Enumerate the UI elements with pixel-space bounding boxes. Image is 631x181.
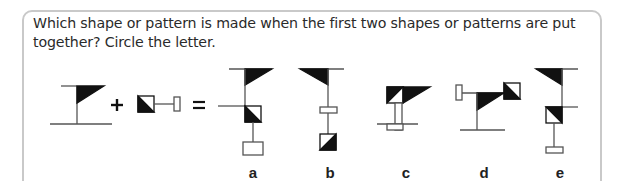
option-c-shape[interactable] — [377, 87, 430, 130]
option-e-label[interactable]: e — [550, 164, 570, 181]
option-b-label[interactable]: b — [320, 164, 340, 181]
option-e-shape[interactable] — [536, 69, 578, 153]
option-a-shape[interactable] — [218, 69, 272, 155]
option-d-shape[interactable] — [456, 83, 520, 130]
operand-1-shape — [50, 86, 112, 124]
operand-2-shape — [138, 96, 180, 112]
option-b-shape[interactable] — [300, 69, 344, 150]
option-a-label[interactable]: a — [243, 164, 263, 181]
option-d-label[interactable]: d — [474, 164, 494, 181]
puzzle-figure — [0, 0, 631, 181]
equals-sign — [193, 102, 205, 108]
plus-sign — [111, 99, 123, 111]
option-c-label[interactable]: c — [396, 164, 416, 181]
